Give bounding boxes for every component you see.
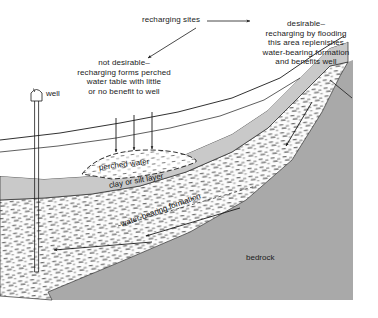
annotation-recharging-sites: recharging sites <box>132 15 210 25</box>
well-label: well <box>46 89 60 98</box>
annotation-desirable: desirable– recharging by flooding this a… <box>242 19 370 67</box>
groundwater-recharge-diagram: recharging sites not desirable– rechargi… <box>0 0 378 318</box>
annotation-not-desirable: not desirable– recharging forms perched … <box>58 58 190 96</box>
bedrock-label: bedrock <box>246 253 274 262</box>
leader-to-not-desirable <box>148 28 196 58</box>
well-pump-head-icon <box>31 90 42 102</box>
